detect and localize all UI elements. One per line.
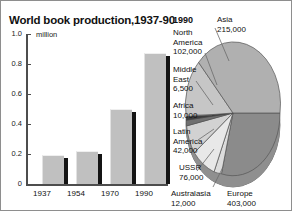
x-axis-line <box>26 184 168 186</box>
y-tick-label-5: 0.2 <box>2 150 22 158</box>
pie-label-asia: Asia 215,000 <box>217 15 246 34</box>
pie-label-middle-east: Middle East 6,500 <box>173 65 197 94</box>
y-tick-label-3: 0.6 <box>2 90 22 98</box>
bar-body <box>144 53 166 184</box>
y-tick-label-4: 0.4 <box>2 120 22 128</box>
bar-1954 <box>76 151 102 184</box>
x-tick-label-1990: 1990 <box>127 189 161 198</box>
pie-label-australasia: Australasia 12,000 <box>171 189 211 208</box>
bar-1990 <box>144 53 170 184</box>
bar-1970 <box>110 109 136 184</box>
pie-label-africa: Africa 10,000 <box>173 101 197 120</box>
bar-shadow <box>132 112 136 184</box>
x-tick-label-1937: 1937 <box>25 189 59 198</box>
figure-container: World book production,1937-90 million 1.… <box>0 0 292 211</box>
pie-label-latin-america: Latin America 42,000 <box>173 127 202 156</box>
pie-label-europe: Europe 403,000 <box>227 189 256 208</box>
bar-chart-panel: World book production,1937-90 million 1.… <box>1 1 169 211</box>
bar-shadow <box>98 154 102 184</box>
bar-shadow <box>64 158 68 184</box>
y-axis-tick <box>26 184 31 185</box>
bar-1937 <box>42 155 68 184</box>
pie-label-ussr: USSR 76,000 <box>179 163 203 182</box>
bar-body <box>76 151 98 184</box>
x-tick-label-1970: 1970 <box>93 189 127 198</box>
y-tick-label-2: 0.8 <box>2 60 22 68</box>
y-axis-tick-labels: 1.0 0.8 0.6 0.4 0.2 0 <box>1 1 22 211</box>
x-tick-label-1954: 1954 <box>59 189 93 198</box>
page-title: World book production,1937-90 <box>9 14 175 26</box>
pie-label-north-america: North America 102,000 <box>173 28 202 57</box>
y-tick-label-6: 0 <box>2 180 22 188</box>
bar-plot-area <box>28 34 168 184</box>
y-tick-label-1: 1.0 <box>2 30 22 38</box>
bar-body <box>42 155 64 184</box>
bar-body <box>110 109 132 184</box>
pie-chart-panel: 1990 <box>169 1 292 211</box>
